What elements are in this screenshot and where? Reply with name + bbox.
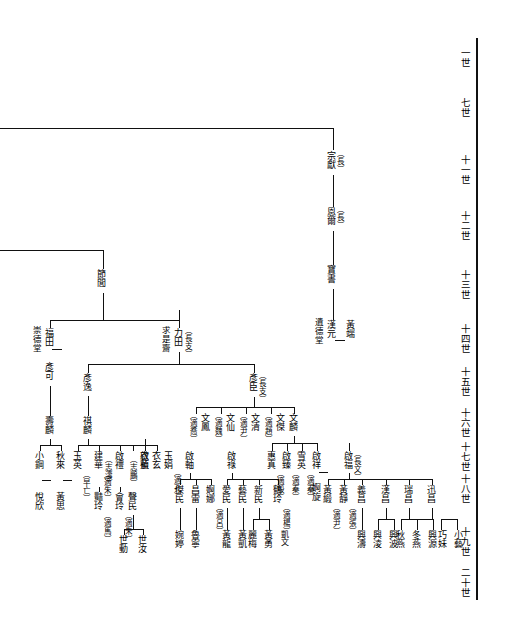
spouse-link-futian [52,349,62,350]
person-huizhen: 惠真 [266,451,275,469]
connector-to-huangyong [269,519,270,530]
person-huizhen-tag: （適殷） [276,469,284,501]
connector-qilu-children-bus [227,479,278,480]
person-heling-tag: （適楊） [282,503,290,535]
spouse-link-xiaogang [42,480,51,481]
person-yuying-tag: （早亡） [82,470,90,502]
connector-to-xingbo [394,519,395,530]
connector-to-qiaomei [441,519,442,530]
person-xingling: 興淩 [372,530,381,548]
spouse-link-qiulai [63,480,72,481]
person-zongxian-tag: （長） [336,149,344,173]
person-xingyuan: 興源 [427,530,436,548]
person-jiemin: 傑民 [174,485,183,503]
person-exuan: 婀旋 [311,483,320,501]
connector-yanchen-down [254,397,255,407]
person-yilan: 衣藍 [139,451,148,469]
person-wenxian: 文仙 [225,413,234,431]
connector-ruichang-down [409,508,410,519]
person-shiru: 世汝 [137,535,146,553]
person-qilu: 啟祿 [226,451,235,469]
connector-wenlin-down [294,436,295,443]
connector-to-qizhen2 [287,443,288,451]
person-wenfeng-tag: （適喬） [189,411,197,443]
connector-changlei-luning [196,508,197,530]
connector-xunchang-children-bus [441,519,457,520]
person-yichang: 義昌 [356,485,365,503]
person-yanchen-tag: （長支） [258,371,266,403]
connector-to-yanyi [88,364,89,373]
person-wenlin: 文麟 [288,413,297,431]
person-xiaoyi: 小藝 [453,530,462,548]
person-yanyi: 彥逸 [82,373,91,391]
connector-yanyi-qilin [88,396,89,416]
connector-hanchang-children-bus [378,519,394,520]
person-qiaomei: 巧妹 [437,530,446,548]
connector-shoulin-children-bus [40,445,61,446]
person-ruichang: 瑞昌 [403,485,412,503]
generation-label-15: 十五世 [461,367,471,397]
connector-to-huizhen [272,443,273,451]
person-huangduan-tag: （適尹） [332,503,340,535]
connector-jielv-down [103,293,104,320]
connector-gen14-bus [50,320,180,321]
person-huangjing: 黃靜 [338,485,347,503]
connector-gen12-left-bus [0,250,104,251]
person-qili: 啟禮 [114,451,123,469]
connector-yichang-xingtao [362,508,363,530]
generation-label-16: 十六世 [461,408,471,438]
connector-to-xiaoyi [457,519,458,530]
person-xingtao: 興濤 [356,530,365,548]
person-shengmin: 聲民 [127,492,136,510]
connector-gen7-bus [0,128,334,129]
person-baoshu: 寶書 [326,265,335,283]
person-qizhen-tag: （志鵬） [129,455,137,487]
person-qizhen2-tag: （適秦） [291,469,299,501]
person-yimin: 藝民 [237,485,246,503]
person-yuexin: 悅欣 [34,492,43,510]
spouse-link-qixiang [319,472,328,473]
connector-to-xingyuan [433,519,434,530]
person-qiulai: 秋來 [55,451,64,469]
connector-to-qiuyan [401,519,402,530]
connector-to-xueying [302,443,303,451]
person-xiaogang: 小鋼 [34,451,43,469]
connector-qilin-children-bus [78,445,133,446]
person-wenjie: 文傑 [275,413,284,431]
person-jianhua: 建華 [93,451,102,469]
connector-jiemin-wanting [180,508,181,530]
connector-zongxian-ener [333,175,334,207]
generation-label-7: 七世 [461,98,471,118]
generation-label-1: 一世 [461,48,471,68]
person-hanchang: 漢昌 [380,485,389,503]
person-yanling-tag: （適馬） [103,511,111,543]
person-shidong: 世動 [118,535,127,553]
person-huangjing-tag: （適張） [348,503,356,535]
person-hanyuan: 漢元 [326,320,335,338]
person-qifu: 啟福 [343,451,352,469]
connector-to-litian [179,310,180,328]
connector-yimin-huangkai [243,508,244,530]
connector-to-xingling [378,519,379,530]
person-ener: 恩爾 [326,207,335,225]
connector-litian-down [179,352,180,364]
person-ener-tag: （長） [336,205,344,229]
connector-wenlin-children-bus [272,443,318,444]
connector-hanchang-down [386,508,387,519]
person-zongxian: 宗獻 [326,151,335,169]
spouse-link-hanyuan [335,340,345,341]
connector-ener-baoshu [333,231,334,265]
spouse-huangduan-of-hanyuan: 黃端 [345,320,354,338]
person-wenjie-tag: （適趙） [264,411,272,443]
person-yuying: 玉英 [72,451,81,469]
person-xunchang: 迅昌 [426,485,435,503]
person-huangkai: 黃凱 [237,530,246,548]
connector-to-jielv [103,250,104,269]
generation-label-13: 十三世 [461,270,471,300]
connector-to-qixiang [317,443,318,451]
person-yujuan: 玉娟 [163,451,172,469]
person-xueying: 雪英 [296,451,305,469]
connector-shengmin-children-bus [124,529,143,530]
person-huangduan: 黃緞 [322,485,331,503]
person-yixuan: 衣玄 [151,451,160,469]
